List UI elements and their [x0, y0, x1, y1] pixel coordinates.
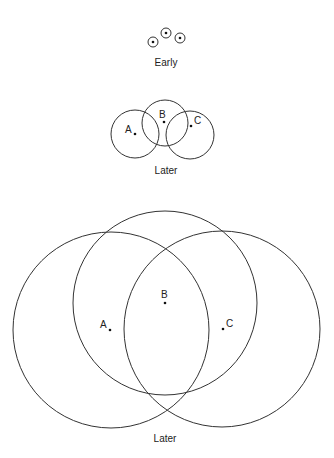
early-stage: Early	[148, 28, 185, 68]
large-point-c	[222, 328, 225, 331]
later-stage-large: A B C Later	[13, 211, 320, 444]
later-label-small: Later	[155, 165, 178, 176]
small-label-b: B	[159, 109, 166, 120]
small-point-c	[190, 125, 193, 128]
small-circle-c	[166, 111, 214, 159]
early-center-1	[152, 41, 155, 44]
small-point-b	[163, 121, 166, 124]
later-label-large: Later	[154, 433, 177, 444]
large-label-b: B	[161, 289, 168, 300]
small-label-a: A	[125, 124, 132, 135]
overlap-diagram: Early A B C Later A B C Later	[0, 0, 334, 458]
early-center-2	[165, 32, 168, 35]
small-circle-b	[142, 100, 188, 146]
small-label-c: C	[194, 115, 201, 126]
later-stage-small: A B C Later	[111, 100, 214, 176]
large-label-c: C	[226, 318, 233, 329]
early-center-3	[179, 37, 182, 40]
early-label: Early	[155, 57, 178, 68]
large-point-a	[109, 329, 112, 332]
small-point-a	[134, 133, 137, 136]
large-point-b	[164, 302, 167, 305]
large-label-a: A	[100, 319, 107, 330]
